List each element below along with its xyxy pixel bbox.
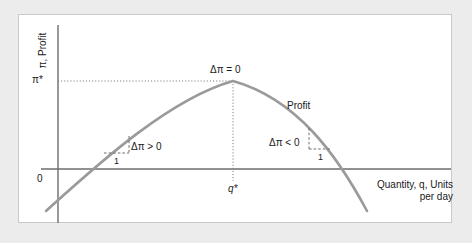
- x-axis-title-line1: Quantity, q, Units: [377, 179, 453, 190]
- right-slope-annotation: Δπ < 0: [269, 137, 300, 149]
- left-slope-annotation: Δπ > 0: [131, 141, 162, 153]
- y-axis-tick-label-pi-star: π*: [32, 74, 43, 86]
- apex-annotation: Δπ = 0: [210, 64, 241, 76]
- x-axis-tick-label-q-star: q*: [228, 183, 237, 195]
- left-run-label: 1: [114, 156, 119, 167]
- profit-curve-label: Profit: [287, 100, 310, 112]
- figure-panel: π, Profit π* 0 q* Quantity, q, Unitsper …: [18, 14, 452, 223]
- origin-label: 0: [37, 173, 43, 185]
- right-run-label: 1: [318, 152, 323, 163]
- x-axis-title-line2: per day: [420, 191, 453, 202]
- x-axis-title: Quantity, q, Unitsper day: [367, 179, 453, 203]
- profit-curve: [46, 81, 367, 211]
